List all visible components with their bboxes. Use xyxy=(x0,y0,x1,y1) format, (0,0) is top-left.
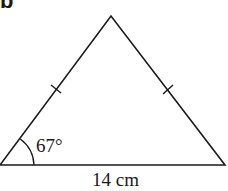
angle-arc xyxy=(20,139,34,165)
triangle-diagram: b 67° 14 cm xyxy=(0,0,228,191)
part-label: b xyxy=(0,0,13,13)
triangle xyxy=(0,16,225,165)
base-label: 14 cm xyxy=(92,169,139,190)
angle-label: 67° xyxy=(36,135,63,156)
